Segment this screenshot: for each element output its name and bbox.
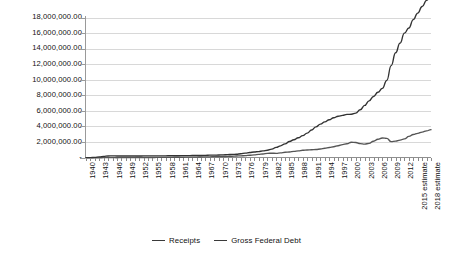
x-axis-tick-mark bbox=[307, 158, 308, 161]
chart-legend: Receipts Gross Federal Debt bbox=[0, 236, 453, 245]
x-axis-tick-label: 1988 bbox=[301, 162, 309, 179]
x-axis-tick-mark bbox=[312, 158, 313, 161]
x-axis-tick-mark bbox=[374, 158, 375, 161]
x-axis-tick-mark bbox=[334, 158, 335, 161]
series-lines bbox=[86, 18, 431, 158]
x-axis-tick-mark bbox=[294, 158, 295, 161]
x-axis-tick-mark bbox=[404, 158, 405, 161]
x-axis-tick-mark bbox=[210, 158, 211, 161]
x-axis-tick-mark bbox=[90, 158, 91, 161]
x-axis-tick-mark bbox=[126, 158, 127, 161]
x-axis-tick-label: 2000 bbox=[354, 162, 362, 179]
x-axis-tick-mark bbox=[281, 158, 282, 161]
x-axis-tick-label: 2018 estimate bbox=[434, 162, 442, 210]
y-axis-tick-label: 10,000,000.00 bbox=[0, 76, 82, 84]
x-axis-tick-mark bbox=[298, 158, 299, 161]
y-axis-labels: 18,000,000.0016,000,000.0014,000,000.001… bbox=[0, 0, 82, 165]
x-axis-tick-label: 2015 estimate bbox=[421, 162, 429, 210]
x-axis-tick-label: 1985 bbox=[288, 162, 296, 179]
x-axis-tick-mark bbox=[250, 158, 251, 161]
x-axis-tick-label: 1952 bbox=[142, 162, 150, 179]
x-axis-tick-mark bbox=[347, 158, 348, 161]
series-line-receipts bbox=[86, 129, 431, 157]
x-axis-tick-label: 1979 bbox=[262, 162, 270, 179]
x-axis-tick-mark bbox=[431, 158, 432, 161]
x-axis-tick-mark bbox=[241, 158, 242, 161]
x-axis-tick-mark bbox=[267, 158, 268, 161]
y-axis-tick-label: 6,000,000.00 bbox=[0, 107, 82, 115]
x-axis-tick-mark bbox=[418, 158, 419, 161]
x-axis-tick-mark bbox=[316, 158, 317, 161]
x-axis-tick-mark bbox=[144, 158, 145, 161]
x-axis-tick-mark bbox=[99, 158, 100, 161]
x-axis-tick-mark bbox=[232, 158, 233, 161]
x-axis-tick-mark bbox=[351, 158, 352, 161]
x-axis-tick-mark bbox=[192, 158, 193, 161]
x-axis-tick-mark bbox=[320, 158, 321, 161]
x-axis-tick-mark bbox=[387, 158, 388, 161]
x-axis-tick-mark bbox=[95, 158, 96, 161]
x-axis-tick-mark bbox=[391, 158, 392, 161]
x-axis-tick-mark bbox=[157, 158, 158, 161]
legend-item-gross-federal-debt[interactable]: Gross Federal Debt bbox=[214, 236, 301, 245]
x-axis-tick-mark bbox=[223, 158, 224, 161]
x-axis-tick-label: 1982 bbox=[275, 162, 283, 179]
x-axis-tick-mark bbox=[360, 158, 361, 161]
x-axis-tick-mark bbox=[259, 158, 260, 161]
x-axis-tick-label: 1958 bbox=[169, 162, 177, 179]
x-axis-tick-mark bbox=[400, 158, 401, 161]
x-axis-tick-mark bbox=[396, 158, 397, 161]
x-axis-tick-mark bbox=[378, 158, 379, 161]
legend-swatch-receipts bbox=[152, 240, 165, 242]
y-axis-tick-label: 8,000,000.00 bbox=[0, 91, 82, 99]
x-axis-tick-label: 2003 bbox=[368, 162, 376, 179]
x-axis-tick-mark bbox=[148, 158, 149, 161]
x-axis-tick-mark bbox=[382, 158, 383, 161]
x-axis-tick-label: 1940 bbox=[89, 162, 97, 179]
x-axis-tick-mark bbox=[130, 158, 131, 161]
x-axis-tick-mark bbox=[183, 158, 184, 161]
x-axis-tick-label: 1961 bbox=[182, 162, 190, 179]
legend-label-receipts: Receipts bbox=[169, 236, 200, 245]
legend-swatch-gross-federal-debt bbox=[214, 240, 227, 242]
x-axis-tick-label: 1973 bbox=[235, 162, 243, 179]
x-axis-tick-mark bbox=[104, 158, 105, 161]
x-axis-tick-mark bbox=[276, 158, 277, 161]
x-axis-tick-mark bbox=[170, 158, 171, 161]
x-axis-tick-label: 1955 bbox=[155, 162, 163, 179]
x-axis-tick-mark bbox=[343, 158, 344, 161]
x-axis-tick-mark bbox=[329, 158, 330, 161]
x-axis-tick-mark bbox=[409, 158, 410, 161]
x-axis-tick-mark bbox=[201, 158, 202, 161]
x-axis-tick-mark bbox=[427, 158, 428, 161]
x-axis-tick-mark bbox=[139, 158, 140, 161]
x-axis-tick-mark bbox=[356, 158, 357, 161]
x-axis-tick-mark bbox=[214, 158, 215, 161]
x-axis-tick-mark bbox=[152, 158, 153, 161]
x-axis-tick-label: 1994 bbox=[328, 162, 336, 179]
x-axis-tick-mark bbox=[365, 158, 366, 161]
x-axis-tick-mark bbox=[113, 158, 114, 161]
x-axis-tick-mark bbox=[289, 158, 290, 161]
legend-item-receipts[interactable]: Receipts bbox=[152, 236, 200, 245]
x-axis-tick-mark bbox=[117, 158, 118, 161]
x-axis-tick-mark bbox=[285, 158, 286, 161]
x-axis-tick-label: 2012 bbox=[407, 162, 415, 179]
plot-area bbox=[86, 18, 431, 158]
x-axis-tick-mark bbox=[254, 158, 255, 161]
x-axis-tick-label: 1949 bbox=[129, 162, 137, 179]
x-axis-tick-mark bbox=[219, 158, 220, 161]
x-axis-tick-mark bbox=[228, 158, 229, 161]
x-axis-tick-mark bbox=[166, 158, 167, 161]
x-axis-tick-mark bbox=[121, 158, 122, 161]
x-axis-tick-mark bbox=[197, 158, 198, 161]
x-axis-tick-label: 2006 bbox=[381, 162, 389, 179]
x-axis-tick-mark bbox=[135, 158, 136, 161]
x-axis-tick-label: 1946 bbox=[116, 162, 124, 179]
x-axis-tick-mark bbox=[303, 158, 304, 161]
x-axis-tick-mark bbox=[422, 158, 423, 161]
x-axis-tick-mark bbox=[174, 158, 175, 161]
y-axis-tick-label: 12,000,000.00 bbox=[0, 60, 82, 68]
y-axis-tick-label: 16,000,000.00 bbox=[0, 29, 82, 37]
chart-container: 18,000,000.0016,000,000.0014,000,000.001… bbox=[0, 0, 453, 259]
